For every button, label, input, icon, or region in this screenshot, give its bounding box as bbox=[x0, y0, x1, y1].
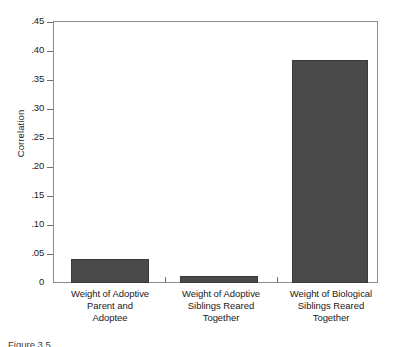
x-axis-category-label: Weight of AdoptiveParent andAdoptee bbox=[52, 288, 168, 323]
figure-caption: Figure 3.5 bbox=[8, 339, 248, 347]
x-axis-category-label: Weight of BiologicalSiblings RearedToget… bbox=[272, 288, 390, 323]
bar-chart-figure: Correlation .45.40.35.30.25.20.15.10.050… bbox=[0, 0, 399, 347]
x-axis-category-label-line: Siblings Reared bbox=[272, 300, 390, 312]
x-axis-tick-mark bbox=[165, 277, 166, 283]
bar bbox=[180, 276, 258, 283]
bar bbox=[292, 60, 368, 283]
x-axis-category-label-line: Weight of Adoptive bbox=[52, 288, 168, 300]
x-axis-category-label-line: Together bbox=[163, 312, 279, 324]
bar bbox=[71, 259, 149, 283]
x-axis-category-label: Weight of AdoptiveSiblings RearedTogethe… bbox=[163, 288, 279, 323]
x-axis-category-label-line: Parent and bbox=[52, 300, 168, 312]
x-axis-category-label-line: Weight of Adoptive bbox=[163, 288, 279, 300]
x-axis-category-label-line: Weight of Biological bbox=[272, 288, 390, 300]
x-axis-tick-mark bbox=[277, 277, 278, 283]
x-axis-category-label-line: Together bbox=[272, 312, 390, 324]
x-axis-category-label-line: Adoptee bbox=[52, 312, 168, 324]
x-axis-category-label-line: Siblings Reared bbox=[163, 300, 279, 312]
